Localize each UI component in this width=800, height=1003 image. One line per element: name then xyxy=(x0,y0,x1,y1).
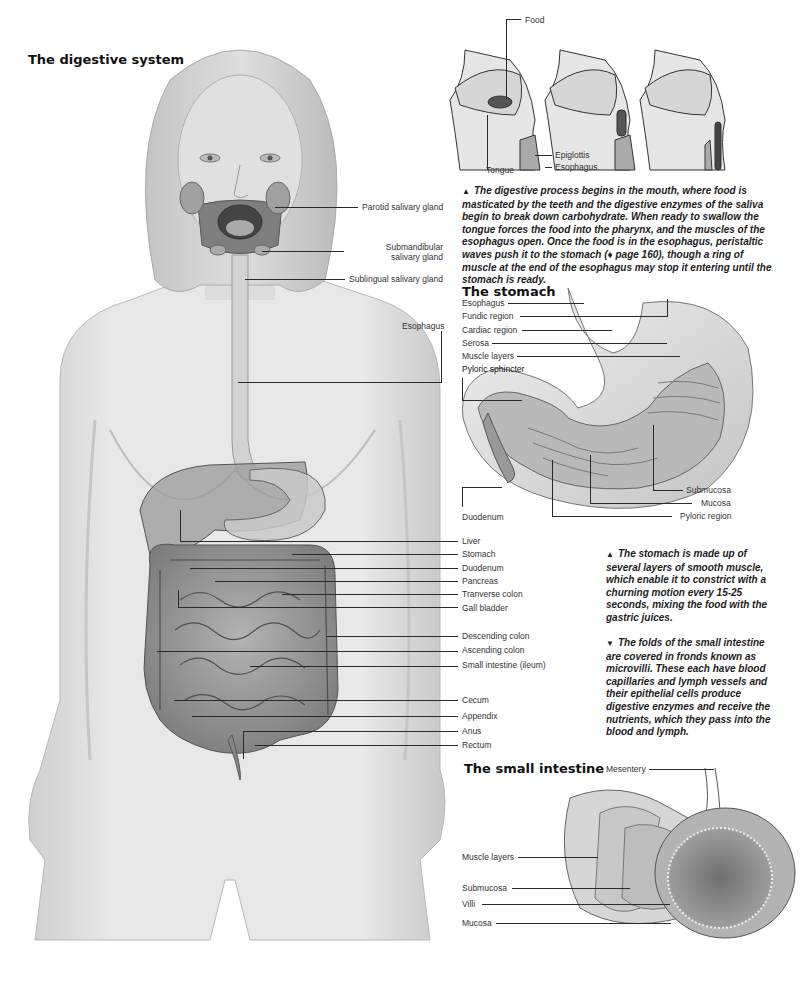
label-st-pyloric-region: Pyloric region xyxy=(680,511,732,521)
leader-st-submucosa xyxy=(653,490,683,491)
leader-liver xyxy=(180,541,458,542)
label-descending-colon: Descending colon xyxy=(462,631,530,641)
label-sublingual-salivary-gland: Sublingual salivary gland xyxy=(349,274,443,284)
caption-swallowing: ▲The digestive process begins in the mou… xyxy=(462,185,772,287)
leader-submandibular xyxy=(262,251,344,252)
label-st-serosa: Serosa xyxy=(462,338,489,348)
label-esophagus-swallow: Esophagus xyxy=(555,162,598,172)
leader-st-mucosa-v xyxy=(590,455,591,503)
leader-st-serosa xyxy=(492,343,667,344)
label-si-muscle-layers: Muscle layers xyxy=(462,852,514,862)
label-liver: Liver xyxy=(462,536,480,546)
caption-swallowing-text: The digestive process begins in the mout… xyxy=(462,185,771,285)
leader-si-muscle xyxy=(518,857,598,858)
caption-stomach-text: The stomach is made up of several layers… xyxy=(606,548,767,623)
leader-st-mucosa xyxy=(590,503,692,504)
parotid-gland xyxy=(180,182,204,214)
label-st-mucosa: Mucosa xyxy=(701,498,731,508)
label-st-submucosa: Submucosa xyxy=(686,485,731,495)
caption-small-intestine: ▼The folds of the small intestine are co… xyxy=(606,637,778,739)
leader-rectum xyxy=(255,745,458,746)
leader-parotid xyxy=(275,207,358,208)
leader-liver-v xyxy=(180,510,181,542)
leader-stomach xyxy=(292,554,458,555)
intestine-mass xyxy=(144,544,338,753)
label-cecum: Cecum xyxy=(462,695,489,705)
label-food: Food xyxy=(525,15,544,25)
leader-epiglottis xyxy=(535,155,552,156)
body-illustration xyxy=(0,0,460,1003)
leader-anus xyxy=(243,731,458,732)
label-mesentery: Mesentery xyxy=(606,764,646,774)
label-si-submucosa: Submucosa xyxy=(462,883,507,893)
leader-transverse-colon xyxy=(282,594,458,595)
leader-gall-bladder xyxy=(178,607,458,608)
label-submandibular-salivary-gland: Submandibular salivary gland xyxy=(345,242,443,262)
leader-sublingual xyxy=(245,279,345,280)
caption-small-intestine-text: The folds of the small intestine are cov… xyxy=(606,637,770,737)
leader-cecum xyxy=(174,700,458,701)
label-epiglottis: Epiglottis xyxy=(555,150,590,160)
label-gall-bladder: Gall bladder xyxy=(462,603,508,613)
swallowing-sequence-illustration xyxy=(440,40,780,180)
leader-st-pyloric-region xyxy=(552,516,672,517)
leader-descending-colon xyxy=(326,636,458,637)
label-parotid-salivary-gland: Parotid salivary gland xyxy=(362,202,443,212)
label-stomach: Stomach xyxy=(462,549,496,559)
leader-small-intestine xyxy=(250,666,458,667)
leader-gall-bladder-v xyxy=(178,590,179,608)
triangle-up-icon: ▲ xyxy=(606,550,614,559)
leader-st-submucosa-v xyxy=(653,425,654,490)
label-submandibular-line2: salivary gland xyxy=(345,252,443,262)
label-ascending-colon: Ascending colon xyxy=(462,645,524,655)
label-st-fundic-region: Fundic region xyxy=(462,311,514,321)
label-st-pyloric-sphincter: Pyloric sphincter xyxy=(462,364,524,374)
triangle-down-icon: ▼ xyxy=(606,639,614,648)
leader-st-fundic-v xyxy=(667,299,668,317)
label-tongue: Tongue xyxy=(486,165,514,175)
leader-st-esophagus xyxy=(508,303,584,304)
leader-ascending-colon xyxy=(157,651,458,652)
caption-stomach: ▲The stomach is made up of several layer… xyxy=(606,548,778,625)
small-intestine-illustration xyxy=(530,758,800,938)
leader-si-villi xyxy=(482,904,670,905)
triangle-up-icon: ▲ xyxy=(462,187,470,196)
leader-st-cardiac xyxy=(522,330,612,331)
label-st-cardiac-region: Cardiac region xyxy=(462,325,517,335)
leader-esophagus-h xyxy=(238,382,442,383)
label-anus: Anus xyxy=(462,726,481,736)
leader-st-fundic xyxy=(520,316,668,317)
leader-pancreas xyxy=(215,581,458,582)
label-transverse-colon: Tranverse colon xyxy=(462,589,523,599)
leader-st-muscle xyxy=(517,356,680,357)
label-esophagus-body: Esophagus xyxy=(402,321,445,331)
leader-anus-v xyxy=(243,731,244,759)
label-small-intestine: Small intestine (ileum) xyxy=(462,660,546,670)
stomach-illustration xyxy=(458,288,758,508)
leader-duodenum xyxy=(190,568,458,569)
leader-si-mucosa xyxy=(496,923,671,924)
villi-cross-section xyxy=(668,828,772,928)
leader-st-pyloric-sphincter xyxy=(462,400,522,401)
leader-st-duodenum xyxy=(462,487,502,488)
leader-si-submucosa xyxy=(512,888,630,889)
label-si-mucosa: Mucosa xyxy=(462,918,492,928)
label-pancreas: Pancreas xyxy=(462,576,498,586)
leader-food-h xyxy=(506,19,521,20)
label-st-esophagus: Esophagus xyxy=(462,298,505,308)
label-st-muscle-layers: Muscle layers xyxy=(462,351,514,361)
label-submandibular-line1: Submandibular xyxy=(345,242,443,252)
label-st-duodenum: Duodenum xyxy=(462,512,504,522)
leader-esophagus-v xyxy=(441,331,442,383)
label-appendix: Appendix xyxy=(462,711,497,721)
leader-st-pyloric-sphincter-v xyxy=(462,378,463,400)
leader-food-v xyxy=(506,19,507,99)
leader-esophagus-swallow xyxy=(545,167,552,168)
leader-st-pyloric-region-v xyxy=(552,460,553,516)
leader-st-duodenum-v xyxy=(462,487,463,507)
label-duodenum: Duodenum xyxy=(462,563,504,573)
label-rectum: Rectum xyxy=(462,740,491,750)
leader-appendix xyxy=(192,716,458,717)
leader-mesentery xyxy=(649,769,714,770)
label-si-villi: Villi xyxy=(462,899,475,909)
